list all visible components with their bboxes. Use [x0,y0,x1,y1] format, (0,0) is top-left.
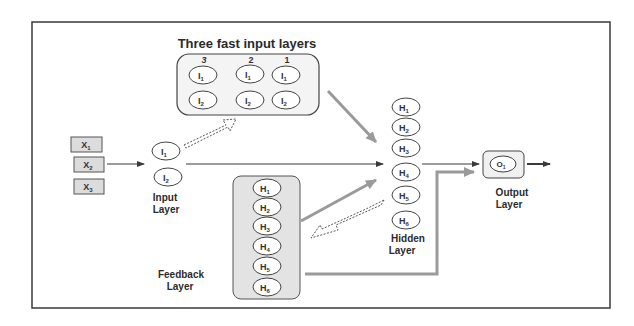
fast-node-col3-i2: I2 [189,91,217,109]
fast-node-col2-i2: I2 [236,91,264,109]
fast-input-layers-panel: 3 2 1 I1 I1 I1 I2 I2 I2 [177,54,319,115]
input-layer-label: Input [153,192,178,203]
input-x2: X2 [74,157,104,172]
feedback-layer-label: Feedback [158,269,205,280]
output-layer-label: Output [496,187,529,198]
hidden-node-h1: H1 [392,98,420,116]
fast-node-col3-i1: I1 [189,66,217,84]
output-layer-label-2: Layer [496,199,523,210]
hidden-node-h4: H4 [392,163,420,181]
input-layer-label-2: Layer [153,204,180,215]
feedback-node-h2: H2 [253,198,281,216]
hidden-node-h2: H2 [392,118,420,136]
feedback-node-h6: H6 [253,278,281,296]
output-node-o1: O1 [490,156,516,172]
hidden-node-h6: H6 [392,211,420,229]
feedback-node-h5: H5 [253,257,281,275]
column-number-1: 1 [284,55,289,65]
feedback-node-h4: H4 [253,237,281,255]
fast-node-col1-i2: I2 [272,91,300,109]
neural-network-diagram: Three fast input layers 3 2 1 I1 I1 I1 I… [0,0,634,326]
title: Three fast input layers [178,36,317,51]
fast-node-col1-i1: I1 [272,66,300,84]
input-node-i2: I2 [154,168,182,186]
column-number-3: 3 [201,55,206,65]
feedback-layer-label-2: Layer [167,281,194,292]
input-layer: I1 I2 Input Layer [152,142,182,215]
input-boxes: X1 X2 X3 [71,137,104,194]
input-x3: X3 [74,179,104,194]
input-node-i1: I1 [152,142,180,160]
hidden-layer-label-2: Layer [389,245,416,256]
feedback-node-h3: H3 [253,217,281,235]
column-number-2: 2 [248,55,253,65]
feedback-node-h1: H1 [253,179,281,197]
hidden-layer-label: Hidden [391,233,425,244]
hidden-node-h3: H3 [392,139,420,157]
fast-node-col2-i1: I1 [236,65,264,83]
input-x1: X1 [71,137,102,152]
hidden-node-h5: H5 [392,186,420,204]
